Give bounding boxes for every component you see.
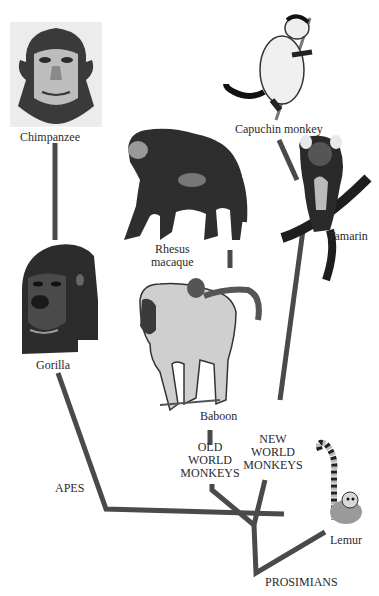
gorilla-illustration: [22, 244, 98, 354]
rhesus-macaque-illustration: [124, 129, 244, 240]
lemur-illustration: [319, 443, 362, 524]
branch-capuchin-tamarin: [279, 140, 297, 180]
phylogenetic-tree: [0, 0, 379, 596]
branch-new-world-upper: [280, 230, 303, 400]
tamarin-illustration: [282, 135, 368, 280]
label-rhesus-line2: macaque: [151, 256, 194, 269]
branch-old-world: [212, 484, 254, 525]
chimpanzee-illustration: [10, 22, 102, 127]
group-label-old-world-monkeys: OLD WORLD MONKEYS: [178, 441, 242, 480]
capuchin-illustration: [226, 16, 312, 120]
group-label-prosimians: PROSIMIANS: [265, 576, 338, 589]
baboon-illustration: [140, 278, 259, 410]
label-gorilla: Gorilla: [36, 359, 70, 372]
new-world-line3: MONKEYS: [243, 459, 303, 472]
label-lemur: Lemur: [330, 534, 362, 547]
old-world-line3: MONKEYS: [178, 467, 242, 480]
label-rhesus-macaque: Rhesus macaque: [151, 243, 194, 269]
label-capuchin-monkey: Capuchin monkey: [235, 123, 323, 136]
label-tamarin: Tamarin: [328, 230, 368, 243]
label-chimpanzee: Chimpanzee: [20, 131, 80, 144]
branch-prosimians: [254, 525, 325, 573]
group-label-new-world-monkeys: NEW WORLD MONKEYS: [243, 433, 303, 472]
branch-new-world: [254, 480, 265, 525]
group-label-apes: APES: [55, 482, 84, 495]
label-baboon: Baboon: [200, 410, 237, 423]
